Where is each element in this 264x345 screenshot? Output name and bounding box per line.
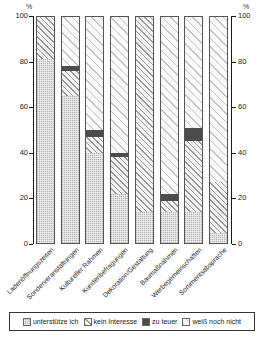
chart-figure: % % LadenöffnungszeitenSonderveranstaltu… — [0, 0, 264, 345]
legend-item[interactable]: kein Interesse — [84, 318, 138, 326]
legend-swatch-icon — [23, 318, 31, 326]
bar-8[interactable] — [209, 16, 228, 244]
axis-tick-label: 100 — [238, 11, 251, 20]
legend-item[interactable]: unterstütze ich — [23, 318, 79, 326]
legend-swatch-icon — [142, 318, 150, 326]
axis-tick — [232, 198, 236, 199]
bar-segment — [184, 128, 203, 142]
axis-tick — [232, 62, 236, 63]
axis-tick-label: 80 — [238, 57, 246, 66]
bar-segment — [85, 16, 104, 130]
right-axis-line — [231, 16, 232, 244]
legend-label: weiß noch nicht — [192, 318, 241, 325]
bar-segment — [160, 194, 179, 201]
bar-segment — [36, 16, 55, 59]
bar-segment — [160, 16, 179, 194]
bar-segment — [110, 157, 129, 193]
left-axis-unit: % — [26, 3, 32, 10]
legend-label: kein Interesse — [94, 318, 138, 325]
axis-tick-label: 20 — [238, 193, 246, 202]
axis-tick — [29, 244, 33, 245]
bar-segment — [85, 137, 104, 153]
bar-segment — [135, 16, 154, 212]
axis-tick — [232, 153, 236, 154]
axis-tick-label: 60 — [238, 102, 246, 111]
chart-legend: unterstütze ichkein Interessezu teuerwei… — [9, 312, 255, 331]
bar-segment — [209, 16, 228, 182]
axis-tick-label: 0 — [24, 239, 28, 248]
bar-segment — [110, 16, 129, 153]
bar-segment — [110, 153, 129, 158]
legend-label: zu teuer — [152, 318, 177, 325]
axis-tick — [232, 107, 236, 108]
bar-segment — [61, 16, 80, 66]
right-axis-unit: % — [243, 3, 249, 10]
legend-item[interactable]: weiß noch nicht — [182, 318, 241, 326]
axis-tick-label: 80 — [20, 57, 28, 66]
legend-item[interactable]: zu teuer — [142, 318, 177, 326]
axis-tick-label: 20 — [20, 193, 28, 202]
plot-area — [33, 16, 231, 244]
bar-segment — [184, 16, 203, 128]
bar-segment — [61, 71, 80, 96]
bar-1[interactable] — [36, 16, 55, 244]
legend-swatch-icon — [182, 318, 190, 326]
legend-swatch-icon — [84, 318, 92, 326]
x-axis-labels: LadenöffnungszeitenSonderveranstaltungen… — [0, 246, 264, 306]
bar-segment — [36, 59, 55, 244]
axis-tick-label: 40 — [238, 148, 246, 157]
axis-tick-label: 40 — [20, 148, 28, 157]
bar-segment — [85, 130, 104, 137]
legend-label: unterstütze ich — [33, 318, 79, 325]
axis-tick-label: 0 — [238, 239, 242, 248]
axis-tick-label: 100 — [15, 11, 28, 20]
bar-2[interactable] — [61, 16, 80, 244]
bar-segment — [61, 66, 80, 71]
axis-tick-label: 60 — [20, 102, 28, 111]
axis-tick — [232, 16, 236, 17]
